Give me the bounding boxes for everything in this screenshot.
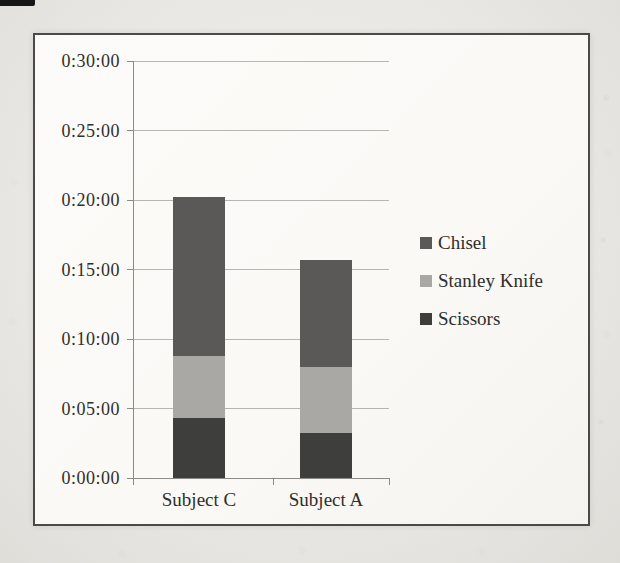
legend-row: Scissors [420, 307, 500, 331]
legend-label: Scissors [438, 307, 500, 331]
bar-segment-stanley-knife [173, 356, 225, 417]
y-gridline [133, 200, 389, 201]
y-tick-label: 0:25:00 [38, 121, 120, 141]
legend-label: Chisel [438, 231, 487, 255]
bar-segment-scissors [300, 433, 352, 478]
legend-row: Stanley Knife [420, 269, 543, 293]
y-gridline [133, 61, 389, 62]
y-axis-line [133, 61, 134, 484]
y-tick-label: 0:20:00 [38, 190, 120, 210]
y-tick-label: 0:10:00 [38, 329, 120, 349]
legend-swatch-stanley-knife [420, 275, 432, 287]
y-tick-label: 0:30:00 [38, 51, 120, 71]
y-tick-label: 0:15:00 [38, 260, 120, 280]
x-category-label: Subject A [261, 489, 391, 511]
x-axis-tick [273, 478, 274, 485]
legend-row: Chisel [420, 231, 487, 255]
x-category-label: Subject C [134, 489, 264, 511]
stacked-bar-chart: 0:00:000:05:000:10:000:15:000:20:000:25:… [0, 0, 620, 563]
y-tick-label: 0:00:00 [38, 468, 120, 488]
bar-segment-chisel [173, 197, 225, 357]
x-axis-tick [389, 478, 390, 485]
bar-segment-stanley-knife [300, 367, 352, 433]
x-axis-tick [133, 478, 134, 485]
legend-label: Stanley Knife [438, 269, 543, 293]
bar-segment-scissors [173, 418, 225, 478]
y-tick-label: 0:05:00 [38, 399, 120, 419]
y-gridline [133, 130, 389, 131]
bar-segment-chisel [300, 260, 352, 367]
legend-swatch-chisel [420, 237, 432, 249]
legend-swatch-scissors [420, 313, 432, 325]
scanned-page-background: 0:00:000:05:000:10:000:15:000:20:000:25:… [0, 0, 620, 563]
